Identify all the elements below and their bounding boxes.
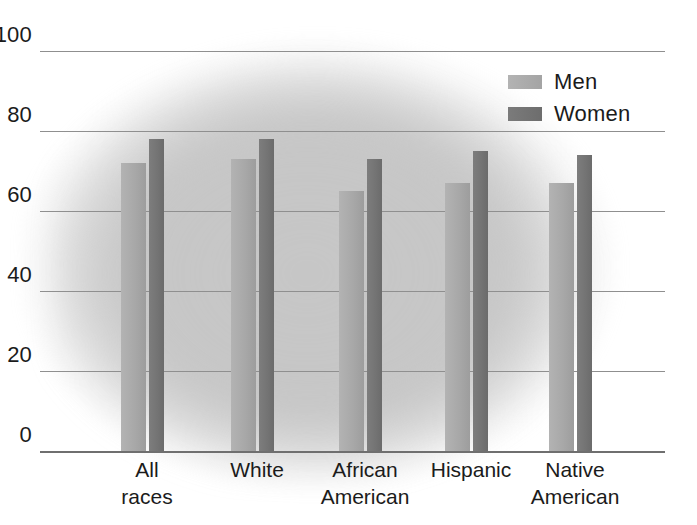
chart-page: 100806040200 All racesWhiteAfrican Ameri… bbox=[0, 0, 697, 525]
gridline-80: 80 bbox=[40, 131, 665, 132]
y-axis-tick-80: 80 bbox=[7, 102, 32, 131]
bar-women-3 bbox=[367, 159, 382, 451]
bar-men-2 bbox=[231, 159, 256, 451]
y-axis-tick-60: 60 bbox=[7, 182, 32, 211]
legend-swatch-women bbox=[508, 107, 542, 121]
x-axis-label-5: Native American bbox=[505, 456, 645, 510]
legend-swatch-men bbox=[508, 75, 542, 89]
gridline-0: 0 bbox=[40, 451, 665, 453]
bar-women-5 bbox=[577, 155, 592, 451]
bar-women-2 bbox=[259, 139, 274, 451]
y-axis-tick-0: 0 bbox=[20, 422, 32, 451]
gridline-100: 100 bbox=[40, 51, 665, 52]
legend-item-men: Men bbox=[508, 66, 678, 98]
bar-men-3 bbox=[339, 191, 364, 451]
x-axis-labels: All racesWhiteAfrican AmericanHispanicNa… bbox=[40, 456, 665, 520]
bar-men-1 bbox=[121, 163, 146, 451]
bar-men-4 bbox=[445, 183, 470, 451]
legend: MenWomen bbox=[508, 66, 678, 130]
bar-men-5 bbox=[549, 183, 574, 451]
y-axis-tick-100: 100 bbox=[0, 22, 32, 51]
y-axis-tick-20: 20 bbox=[7, 342, 32, 371]
legend-label-men: Men bbox=[554, 69, 597, 95]
y-axis-tick-40: 40 bbox=[7, 262, 32, 291]
legend-item-women: Women bbox=[508, 98, 678, 130]
legend-label-women: Women bbox=[554, 101, 630, 127]
bar-women-1 bbox=[149, 139, 164, 451]
bar-women-4 bbox=[473, 151, 488, 451]
